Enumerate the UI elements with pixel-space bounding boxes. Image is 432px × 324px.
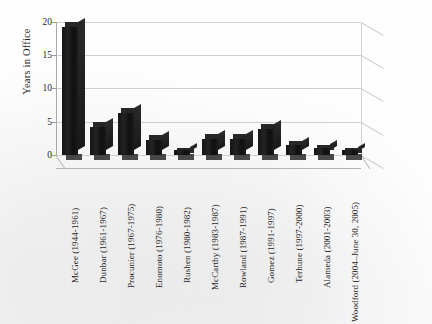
bar-rowland	[230, 134, 246, 155]
y-tick-label: 10	[34, 83, 52, 93]
x-tick-label-terhune: Terhune (1997-2000)	[294, 205, 304, 284]
bar-procunier	[118, 108, 134, 155]
gridline	[56, 55, 361, 56]
bar-terhune	[286, 141, 302, 155]
bar-mccarthy	[202, 134, 218, 155]
bar-side-face	[218, 130, 225, 150]
x-tick-label-rushen: Rushen (1980-1982)	[182, 207, 192, 283]
gridline-depth	[361, 55, 384, 69]
bar-side-face	[246, 130, 253, 150]
bar-gomez	[258, 124, 274, 155]
plot-back-right-edge	[361, 22, 362, 156]
x-tick-label-procunier: Procunier (1967-1975)	[126, 204, 136, 288]
bar-enomoto	[146, 135, 162, 155]
gridline	[56, 22, 361, 23]
bar-rushen	[174, 148, 190, 155]
bar-front-face	[314, 148, 330, 155]
x-tick-label-mcgee: McGee (1944-1961)	[70, 208, 80, 283]
bar-woodford	[342, 148, 358, 155]
bar-mcgee	[62, 22, 78, 155]
y-tick-label: 0	[34, 150, 52, 160]
bar-front-face	[286, 145, 302, 155]
y-tick-label: 5	[34, 117, 52, 127]
gridline-depth	[361, 22, 384, 36]
x-tick-label-dunbar: Dunbar (1961-1967)	[98, 207, 108, 283]
gridline	[56, 88, 361, 89]
bar-chart: Years in Office 20 15 10 5 0	[0, 0, 432, 324]
bar-front-face	[202, 139, 218, 155]
bar-front-face	[146, 140, 162, 155]
floor-left-depth-edge	[56, 155, 66, 169]
bar-front-face	[342, 150, 358, 155]
x-tick-label-mccarthy: McCarthy (1983-1987)	[210, 204, 220, 290]
x-tick-label-woodford: Woodford (2004–June 30, 2005)	[350, 202, 360, 322]
y-axis-line	[56, 22, 57, 156]
bar-alameda	[314, 145, 330, 155]
x-tick-label-gomez: Gomez (1991-1997)	[266, 208, 276, 283]
bar-front-face	[258, 129, 274, 155]
y-tick-label: 15	[34, 50, 52, 60]
bar-side-face	[162, 131, 169, 150]
bar-dunbar	[90, 122, 106, 155]
y-tick-label: 20	[34, 17, 52, 27]
bar-front-face	[90, 127, 106, 155]
bar-front-face	[174, 150, 190, 155]
x-tick-label-enomoto: Enomoto (1976-1980)	[154, 206, 164, 288]
x-tick-label-rowland: Rowland (1987-1991)	[238, 206, 248, 288]
bar-side-face	[78, 18, 85, 150]
y-axis-tick-labels: 20 15 10 5 0	[30, 0, 52, 324]
gridline-depth	[361, 122, 384, 136]
gridline-depth	[361, 88, 384, 102]
x-tick-label-alameda: Alameda (2001-2003)	[322, 206, 332, 288]
bar-front-face	[62, 27, 78, 155]
bar-front-face	[230, 139, 246, 155]
bar-front-face	[118, 113, 134, 155]
